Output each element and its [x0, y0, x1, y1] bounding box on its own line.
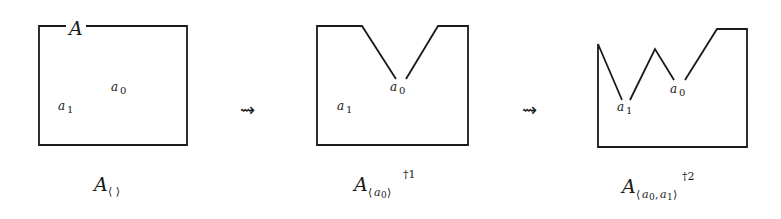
leadsto-arrow-icon: ⇝: [522, 99, 537, 120]
caption-subscript-separator: ,: [655, 188, 659, 201]
caption-superscript: †2: [682, 170, 695, 183]
set-label-a: A: [67, 17, 83, 39]
caption-subscript-close: ⟩: [387, 186, 391, 199]
caption-subscript-open: ⟨: [368, 186, 372, 199]
caption-subscript-open: ⟨: [636, 188, 640, 201]
point-a0-index: 0: [679, 87, 685, 98]
point-a1-index: 1: [626, 105, 632, 116]
caption-main: A: [352, 173, 368, 195]
point-a0: a: [670, 82, 677, 96]
panel-3: a 0 a 1 A ⟨ a 0 , a 1 ⟩ †2: [598, 29, 747, 202]
point-a1-index: 1: [346, 104, 352, 115]
caption-subscript-var0: a: [642, 188, 649, 201]
caption-subscript: ⟨ ⟩: [108, 185, 120, 198]
point-a1: a: [58, 99, 65, 113]
point-a0: a: [390, 80, 397, 94]
point-a0: a: [111, 80, 118, 94]
caption-subscript-close: ⟩: [673, 188, 677, 201]
diagram-canvas: A a 0 a 1 A ⟨ ⟩ ⇝ a 0 a 1 A ⟨ a 0 ⟩ †1 ⇝…: [0, 0, 781, 219]
panel-1: A a 0 a 1 A ⟨ ⟩: [39, 17, 187, 198]
point-a1: a: [337, 99, 344, 113]
caption-subscript-var: a: [374, 186, 381, 199]
point-a0-index: 0: [399, 85, 405, 96]
panel-2: a 0 a 1 A ⟨ a 0 ⟩ †1: [317, 26, 468, 200]
leadsto-arrow-icon: ⇝: [240, 99, 255, 120]
caption-superscript: †1: [403, 168, 416, 181]
caption-main: A: [620, 175, 636, 197]
point-a0-index: 0: [120, 85, 126, 96]
caption-subscript-var1: a: [660, 188, 667, 201]
caption-subscript-index1: 1: [667, 192, 673, 202]
point-a1: a: [617, 100, 624, 114]
caption-main: A: [92, 173, 108, 195]
point-a1-index: 1: [67, 104, 73, 115]
set-boundary-middle-peak: [630, 49, 674, 100]
